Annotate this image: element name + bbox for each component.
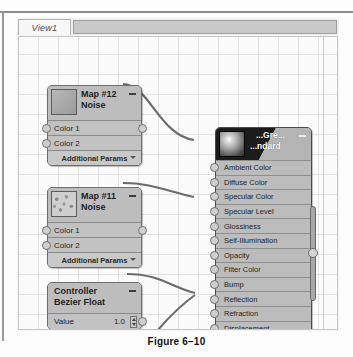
row-label-refraction: Refraction — [224, 309, 258, 318]
node-map11-row-color1[interactable]: Color 1 — [48, 222, 141, 237]
node-standard-row-bump[interactable]: Bump — [216, 277, 311, 292]
input-socket-specular-color[interactable] — [210, 192, 219, 201]
value-spinner-stepper[interactable] — [130, 316, 137, 328]
node-map11-title-line2: Noise — [81, 202, 116, 213]
input-socket-color1[interactable] — [42, 124, 51, 133]
node-map12-title-line2: Noise — [81, 100, 117, 111]
sphere-preview-icon — [219, 131, 245, 157]
output-socket-standard-material[interactable] — [308, 248, 318, 258]
node-standard-row-glossiness[interactable]: Glossiness — [216, 218, 311, 233]
row-label-specular-level: Specular Level — [224, 207, 274, 216]
node-controller-header[interactable]: Controller Bezier Float — [48, 283, 141, 313]
node-controller-value-row[interactable]: Value 1.0 — [48, 313, 141, 329]
row-label-displacement: Displacement — [224, 324, 269, 330]
minimize-icon[interactable] — [129, 93, 136, 95]
tab-view1-label: View1 — [32, 23, 58, 33]
schematic-canvas[interactable]: Map #12 Noise Color 1 Color 2 Additional… — [18, 36, 338, 330]
input-socket-specular-level[interactable] — [210, 207, 219, 216]
row-label-specular-color: Specular Color — [224, 192, 274, 201]
canvas-inner-edge — [323, 37, 324, 330]
node-standard-row-ambient-color[interactable]: Ambient Color — [216, 160, 311, 175]
node-controller-title: Controller Bezier Float — [48, 283, 105, 308]
minimize-icon[interactable] — [129, 290, 136, 292]
node-controller-title-line1: Controller — [54, 286, 97, 296]
input-socket-ambient-color[interactable] — [210, 163, 219, 172]
node-map12-additional-params[interactable]: Additional Params — [48, 150, 141, 165]
minimize-icon[interactable] — [299, 135, 306, 137]
chevron-down-icon[interactable] — [130, 156, 136, 159]
map-thumbnail-icon — [51, 89, 77, 115]
row-label-reflection: Reflection — [224, 295, 257, 304]
node-standard-row-displacement[interactable]: Displacement — [216, 321, 311, 330]
node-map12-title: Map #12 Noise — [81, 86, 117, 111]
node-standard-row-specular-color[interactable]: Specular Color — [216, 189, 311, 204]
node-standard-row-filter-color[interactable]: Filter Color — [216, 262, 311, 277]
node-map11-title: Map #11 Noise — [81, 188, 116, 213]
node-map11-row-color2-label: Color 2 — [54, 241, 80, 250]
input-socket-refraction[interactable] — [210, 309, 219, 318]
node-controller-title-line2: Bezier Float — [54, 297, 105, 308]
node-standard-header[interactable]: ...Gre... ...ndard — [216, 128, 311, 160]
node-map11-noise[interactable]: Map #11 Noise Color 1 Color 2 Additional… — [47, 187, 142, 268]
node-standard-title-line2: ...ndard — [250, 141, 285, 152]
tab-strip-filler — [73, 20, 337, 34]
node-controller-bezier-float[interactable]: Controller Bezier Float Value 1.0 — [47, 282, 142, 330]
row-label-self-illumination: Self-Illumination — [224, 236, 277, 245]
scanned-page: View1 Map — [0, 0, 353, 357]
node-map12-header[interactable]: Map #12 Noise — [48, 86, 141, 120]
node-standard-row-refraction[interactable]: Refraction — [216, 306, 311, 321]
node-standard-title: ...Gre... ...ndard — [256, 130, 285, 152]
schematic-view-window: View1 Map — [17, 18, 339, 331]
output-socket-controller[interactable] — [138, 317, 147, 326]
row-label-opacity: Opacity — [224, 251, 249, 260]
node-standard-row-opacity[interactable]: Opacity — [216, 248, 311, 263]
input-socket-self-illumination[interactable] — [210, 236, 219, 245]
output-socket-color1[interactable] — [138, 124, 147, 133]
noise-thumbnail-icon — [51, 191, 77, 217]
node-standard-row-diffuse-color[interactable]: Diffuse Color — [216, 175, 311, 190]
input-socket-displacement[interactable] — [210, 324, 219, 330]
node-standard-title-line1: ...Gre... — [256, 130, 285, 140]
figure-caption: Figure 6–10 — [0, 336, 353, 347]
node-map12-row-color2-label: Color 2 — [54, 139, 80, 148]
input-socket-filter-color[interactable] — [210, 265, 219, 274]
row-label-ambient-color: Ambient Color — [224, 163, 272, 172]
chevron-down-icon[interactable] — [130, 258, 136, 261]
node-map12-row-color1[interactable]: Color 1 — [48, 120, 141, 135]
node-standard-material[interactable]: ...Gre... ...ndard Ambient Color Diffuse… — [215, 127, 312, 330]
node-map11-header[interactable]: Map #11 Noise — [48, 188, 141, 222]
row-label-diffuse-color: Diffuse Color — [224, 178, 267, 187]
node-standard-row-specular-level[interactable]: Specular Level — [216, 204, 311, 219]
input-socket-color2[interactable] — [42, 241, 51, 250]
node-map12-title-line1: Map #12 — [81, 89, 117, 99]
row-label-glossiness: Glossiness — [224, 222, 261, 231]
minimize-icon[interactable] — [129, 195, 136, 197]
input-socket-color1[interactable] — [42, 226, 51, 235]
node-standard-row-reflection[interactable]: Reflection — [216, 291, 311, 306]
input-socket-diffuse-color[interactable] — [210, 178, 219, 187]
page-rule-top — [0, 11, 353, 13]
node-controller-value[interactable]: 1.0 — [114, 317, 125, 326]
input-socket-reflection[interactable] — [210, 295, 219, 304]
row-label-filter-color: Filter Color — [224, 265, 261, 274]
node-map12-noise[interactable]: Map #12 Noise Color 1 Color 2 Additional… — [47, 85, 142, 166]
node-map11-additional-params-label: Additional Params — [62, 256, 128, 265]
wire-offscreen-bottom — [157, 295, 195, 330]
node-map12-row-color1-label: Color 1 — [54, 124, 80, 133]
node-map12-row-color2[interactable]: Color 2 — [48, 135, 141, 150]
input-socket-color2[interactable] — [42, 139, 51, 148]
page-rule-left — [2, 11, 4, 341]
node-map11-additional-params[interactable]: Additional Params — [48, 252, 141, 267]
output-socket-color1[interactable] — [138, 226, 147, 235]
input-socket-glossiness[interactable] — [210, 222, 219, 231]
tab-view1[interactable]: View1 — [18, 19, 71, 35]
node-standard-row-self-illumination[interactable]: Self-Illumination — [216, 233, 311, 248]
row-label-bump: Bump — [224, 280, 244, 289]
input-socket-opacity[interactable] — [210, 251, 219, 260]
node-map11-row-color2[interactable]: Color 2 — [48, 237, 141, 252]
tab-strip: View1 — [17, 18, 339, 35]
node-controller-value-label: Value — [54, 317, 74, 326]
node-map11-title-line1: Map #11 — [81, 191, 116, 201]
node-map11-row-color1-label: Color 1 — [54, 226, 80, 235]
input-socket-bump[interactable] — [210, 280, 219, 289]
